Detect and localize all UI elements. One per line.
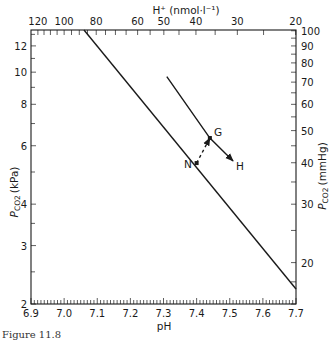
svg-text:30: 30 bbox=[231, 16, 244, 27]
right-axis-title-sub: CO2 bbox=[321, 187, 330, 203]
point-label-g: G bbox=[214, 126, 222, 138]
svg-text:30: 30 bbox=[301, 199, 314, 210]
svg-text:7.3: 7.3 bbox=[156, 308, 172, 319]
right-axis-title: PCO2(mmHg) bbox=[316, 142, 330, 209]
svg-text:50: 50 bbox=[301, 126, 314, 137]
svg-text:PCO2(kPa): PCO2(kPa) bbox=[8, 167, 22, 218]
svg-text:50: 50 bbox=[157, 16, 170, 27]
plot-frame bbox=[31, 30, 296, 304]
point-label-h: H bbox=[236, 160, 244, 172]
svg-text:100: 100 bbox=[301, 26, 320, 37]
svg-text:PCO2(mmHg): PCO2(mmHg) bbox=[316, 142, 330, 209]
svg-text:6: 6 bbox=[21, 141, 27, 152]
svg-text:90: 90 bbox=[301, 41, 314, 52]
svg-text:8: 8 bbox=[21, 99, 27, 110]
svg-text:80: 80 bbox=[301, 58, 314, 69]
svg-text:2: 2 bbox=[21, 299, 27, 310]
svg-text:7.7: 7.7 bbox=[288, 308, 304, 319]
left-axis-title-unit: (kPa) bbox=[8, 167, 20, 194]
chart: 6.97.07.17.27.37.47.57.67.71201008060504… bbox=[0, 0, 335, 340]
svg-text:100: 100 bbox=[55, 16, 74, 27]
svg-text:120: 120 bbox=[28, 16, 47, 27]
svg-text:12: 12 bbox=[14, 41, 27, 52]
svg-text:7.6: 7.6 bbox=[255, 308, 271, 319]
svg-text:60: 60 bbox=[131, 16, 144, 27]
svg-text:60: 60 bbox=[301, 99, 314, 110]
point-label-n: N bbox=[184, 158, 192, 170]
svg-text:7.1: 7.1 bbox=[89, 308, 105, 319]
figure-caption: Figure 11.8 bbox=[2, 329, 61, 340]
svg-text:7.0: 7.0 bbox=[56, 308, 72, 319]
svg-text:40: 40 bbox=[301, 158, 314, 169]
bottom-axis-title: pH bbox=[157, 320, 172, 332]
top-axis-title: H⁺ (nmol·l⁻¹) bbox=[152, 4, 219, 16]
right-axis-title-unit: (mmHg) bbox=[316, 142, 328, 185]
axis-ticks bbox=[31, 30, 296, 304]
svg-text:7.5: 7.5 bbox=[222, 308, 238, 319]
svg-text:20: 20 bbox=[301, 258, 314, 269]
svg-text:70: 70 bbox=[301, 77, 314, 88]
svg-text:7.2: 7.2 bbox=[122, 308, 138, 319]
svg-text:40: 40 bbox=[190, 16, 203, 27]
svg-text:10: 10 bbox=[14, 67, 27, 78]
axis-tick-labels: 6.97.07.17.27.37.47.57.67.71201008060504… bbox=[14, 16, 320, 319]
left-axis-title-sub: CO2 bbox=[13, 195, 22, 211]
svg-text:3: 3 bbox=[21, 241, 27, 252]
svg-text:80: 80 bbox=[90, 16, 103, 27]
left-axis-title: PCO2(kPa) bbox=[8, 167, 22, 218]
svg-text:7.4: 7.4 bbox=[189, 308, 205, 319]
